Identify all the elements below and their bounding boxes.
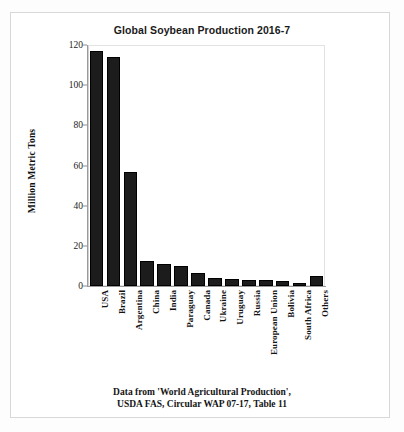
y-tick-mark [83,85,87,86]
x-tick-label: Paraguay [185,290,195,328]
bar [124,172,138,286]
chart-page: Global Soybean Production 2016-7 0204060… [0,0,404,432]
x-tick-label: India [168,290,178,311]
y-tick-label: 0 [55,281,83,291]
x-tick-label: Russia [252,290,262,316]
caption-line-1: Data from 'World Agricultural Production… [0,386,404,398]
y-tick-mark [83,286,87,287]
y-axis-title: Million Metric Tons [27,106,37,236]
y-tick-mark [83,245,87,246]
bars-container [88,45,325,286]
y-tick-label: 40 [55,201,83,211]
y-tick-label: 120 [55,40,83,50]
x-tick-label: Uruguay [235,290,245,325]
x-tick-label: China [151,290,161,314]
y-tick-label: 80 [55,120,83,130]
x-axis-category-labels: USABrazilArgentinaChinaIndiaParaguayCana… [88,290,325,375]
x-axis-line [87,286,326,287]
x-tick-label: Brazil [117,290,127,314]
bar [293,283,307,286]
bar [310,276,324,286]
x-tick-label: South Africa [303,290,313,340]
y-axis-ticks: 020406080100120 [50,0,83,432]
y-tick-label: 60 [55,161,83,171]
y-tick-mark [83,45,87,46]
y-tick-label: 100 [55,80,83,90]
bar [157,264,171,286]
x-tick-label: Bolivia [286,290,296,318]
x-tick-label: Argentina [134,290,144,330]
y-tick-label: 20 [55,241,83,251]
caption-line-2: USDA FAS, Circular WAP 07-17, Table 11 [0,398,404,410]
bar [225,279,239,286]
bar [259,280,273,286]
source-caption: Data from 'World Agricultural Production… [0,386,404,410]
x-tick-label: USA [100,290,110,308]
bar [90,51,104,286]
x-tick-label: Ukraine [218,290,228,322]
bar [107,57,121,286]
bar [208,278,222,286]
bar [242,280,256,286]
y-tick-mark [83,165,87,166]
x-tick-label: Canada [202,290,212,321]
bar [140,261,154,286]
bar [174,266,188,286]
y-tick-mark [83,125,87,126]
x-tick-label: European Union [269,290,279,355]
bar [191,273,205,286]
y-tick-mark [83,205,87,206]
bar [276,281,290,286]
x-tick-label: Others [320,290,330,317]
